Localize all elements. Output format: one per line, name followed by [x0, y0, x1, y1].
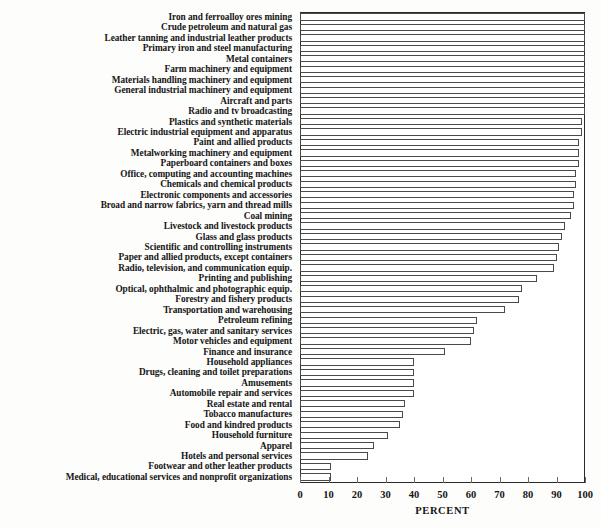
bar	[300, 222, 565, 229]
bar	[300, 24, 585, 31]
category-label: Chemicals and chemical products	[0, 179, 296, 189]
bar	[300, 45, 585, 52]
x-tick-label: 0	[285, 489, 315, 500]
category-label: Footwear and other leather products	[0, 461, 296, 471]
bar-row	[300, 221, 585, 231]
x-tick-label: 30	[371, 489, 401, 500]
x-tick-label: 100	[570, 489, 600, 500]
category-label: Farm machinery and equipment	[0, 64, 296, 74]
category-label: Metalworking machinery and equipment	[0, 148, 296, 158]
bar-row	[300, 158, 585, 168]
bar	[300, 421, 400, 428]
category-label: Office, computing and accounting machine…	[0, 169, 296, 179]
x-tick-label: 40	[399, 489, 429, 500]
bar-row	[300, 127, 585, 137]
bar-row	[300, 148, 585, 158]
bar	[300, 452, 368, 459]
category-label: Finance and insurance	[0, 347, 296, 357]
bar	[300, 233, 562, 240]
category-label: Drugs, cleaning and toilet preparations	[0, 367, 296, 377]
category-label: Paper and allied products, except contai…	[0, 252, 296, 262]
bar	[300, 296, 519, 303]
bar	[300, 275, 537, 282]
bar	[300, 170, 576, 177]
bar	[300, 473, 331, 480]
category-label: Paperboard containers and boxes	[0, 158, 296, 168]
category-label: Coal mining	[0, 211, 296, 221]
bar	[300, 13, 585, 20]
x-tick-mark	[471, 477, 472, 483]
category-label: Aircraft and parts	[0, 96, 296, 106]
x-tick-mark	[585, 477, 586, 483]
x-tick-label: 90	[542, 489, 572, 500]
bar	[300, 97, 585, 104]
category-label: Materials handling machinery and equipme…	[0, 75, 296, 85]
bar-row	[300, 336, 585, 346]
category-label: Real estate and rental	[0, 399, 296, 409]
category-label: Livestock and livestock products	[0, 221, 296, 231]
bar-row	[300, 43, 585, 53]
bar-row	[300, 399, 585, 409]
category-label: Transportation and warehousing	[0, 305, 296, 315]
category-label: Electronic components and accessories	[0, 190, 296, 200]
bar-row	[300, 378, 585, 388]
bar	[300, 107, 585, 114]
bar-row	[300, 12, 585, 22]
x-tick-mark	[557, 477, 558, 483]
bar	[300, 369, 414, 376]
bar	[300, 379, 414, 386]
bar-row	[300, 64, 585, 74]
category-label: Radio, television, and communication equ…	[0, 263, 296, 273]
bar-row	[300, 242, 585, 252]
bar	[300, 254, 557, 261]
x-tick-mark	[329, 477, 330, 483]
category-label: Hotels and personal services	[0, 451, 296, 461]
x-tick-label: 50	[428, 489, 458, 500]
bar	[300, 243, 559, 250]
bar-row	[300, 430, 585, 440]
category-label: Petroleum refining	[0, 315, 296, 325]
category-label: General industrial machinery and equipme…	[0, 85, 296, 95]
bar	[300, 76, 585, 83]
bar	[300, 160, 579, 167]
bar-row	[300, 54, 585, 64]
bar-row	[300, 451, 585, 461]
category-label: Iron and ferroalloy ores mining	[0, 12, 296, 22]
x-tick-label: 70	[485, 489, 515, 500]
bar	[300, 337, 471, 344]
x-tick-mark	[357, 477, 358, 483]
bar-row	[300, 315, 585, 325]
bar-row	[300, 388, 585, 398]
category-label: Amusements	[0, 378, 296, 388]
category-label: Household appliances	[0, 357, 296, 367]
x-axis-title: PERCENT	[300, 505, 585, 516]
x-tick-mark	[386, 477, 387, 483]
x-tick-mark	[300, 477, 301, 483]
category-label: Tobacco manufactures	[0, 409, 296, 419]
bar	[300, 317, 477, 324]
bar	[300, 139, 579, 146]
bar	[300, 264, 554, 271]
bar	[300, 212, 571, 219]
category-label: Forestry and fishery products	[0, 294, 296, 304]
bar-row	[300, 273, 585, 283]
bar-row	[300, 137, 585, 147]
bar	[300, 149, 579, 156]
bar-row	[300, 232, 585, 242]
bar	[300, 432, 388, 439]
bar-row	[300, 409, 585, 419]
category-label: Radio and tv broadcasting	[0, 106, 296, 116]
x-tick-label: 10	[314, 489, 344, 500]
bar-row	[300, 461, 585, 471]
bar-row	[300, 347, 585, 357]
bar	[300, 442, 374, 449]
bar	[300, 327, 474, 334]
x-tick-label: 20	[342, 489, 372, 500]
bar	[300, 400, 405, 407]
category-label: Printing and publishing	[0, 273, 296, 283]
category-label: Scientific and controlling instruments	[0, 242, 296, 252]
bar-row	[300, 294, 585, 304]
x-tick-label: 80	[513, 489, 543, 500]
bar-row	[300, 284, 585, 294]
category-label: Medical, educational services and nonpro…	[0, 472, 296, 482]
